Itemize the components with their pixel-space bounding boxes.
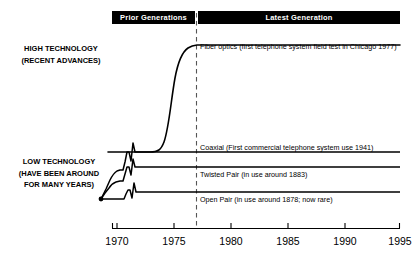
chart-vector-layer <box>0 0 418 261</box>
origin-marker-dot <box>99 197 104 202</box>
series-curve-twisted-pair <box>101 159 400 199</box>
series-curve-open-pair <box>101 183 400 199</box>
series-curve-coaxial <box>101 143 400 199</box>
series-curve-fiber-optics <box>108 45 400 152</box>
technology-timeline-chart: Prior Generations Latest Generation HIGH… <box>0 0 418 261</box>
